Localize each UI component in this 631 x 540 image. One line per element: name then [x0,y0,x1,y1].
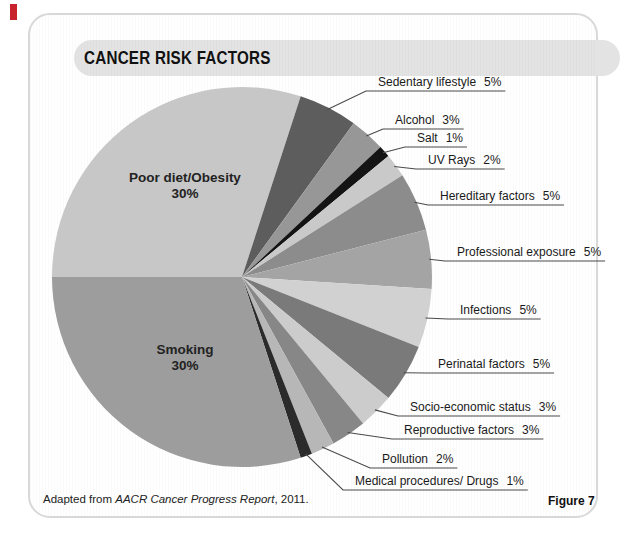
slice-label-hereditary-factors: Hereditary factors5% [440,190,560,202]
slice-label-socio-economic-status: Socio-economic status3% [410,401,556,413]
figure-panel: CANCER RISK FACTORS [28,13,598,518]
slice-label-infections: Infections5% [460,304,537,316]
source-prefix: Adapted from [43,493,115,505]
slice-name: Reproductive factors [404,423,514,437]
slice-label-reproductive-factors: Reproductive factors3% [404,424,539,436]
source-title: AACR Cancer Progress Report [115,493,274,505]
slice-pct: 30% [105,358,265,374]
slice-label-sedentary-lifestyle: Sedentary lifestyle5% [378,76,501,88]
slice-pct: 5% [584,245,601,259]
slice-pct: 5% [484,75,501,89]
slice-pct: 3% [442,113,459,127]
slice-label-smoking: Smoking 30% [105,342,265,374]
slice-pct: 2% [483,153,500,167]
figure-page: CANCER RISK FACTORS Poor diet/Obesity 30… [0,0,631,540]
slice-pct: 1% [506,474,523,488]
slice-name: Sedentary lifestyle [378,75,476,89]
red-edge-mark [10,4,17,20]
slice-pct: 5% [543,189,560,203]
slice-name: Infections [460,303,511,317]
slice-pct: 5% [533,357,550,371]
slice-name: Alcohol [395,113,434,127]
slice-pct: 3% [522,423,539,437]
slice-label-poor-diet-obesity: Poor diet/Obesity 30% [105,170,265,202]
slice-pct: 30% [105,186,265,202]
slice-name: UV Rays [428,153,475,167]
source-suffix: , 2011. [274,493,308,505]
slice-name: Professional exposure [457,245,576,259]
figure-title: CANCER RISK FACTORS [84,47,271,69]
slice-name: Poor diet/Obesity [105,170,265,186]
slice-name: Hereditary factors [440,189,535,203]
figure-number: Figure 7 [548,494,595,508]
slice-pct: 3% [539,400,556,414]
slice-label-medical-procedures-drugs: Medical procedures/ Drugs1% [355,475,524,487]
slice-label-pollution: Pollution2% [382,453,453,465]
slice-label-perinatal-factors: Perinatal factors5% [438,358,550,370]
slice-name: Salt [417,131,438,145]
slice-pct: 2% [436,452,453,466]
slice-label-salt: Salt1% [417,132,463,144]
slice-name: Pollution [382,452,428,466]
slice-label-uv-rays: UV Rays2% [428,154,501,166]
slice-label-professional-exposure: Professional exposure5% [457,246,601,258]
slice-name: Smoking [105,342,265,358]
slice-name: Perinatal factors [438,357,525,371]
source-note: Adapted from AACR Cancer Progress Report… [43,493,309,505]
slice-name: Socio-economic status [410,400,531,414]
slice-label-alcohol: Alcohol3% [395,114,460,126]
figure-header: CANCER RISK FACTORS [74,40,620,76]
slice-name: Medical procedures/ Drugs [355,474,498,488]
slice-pct: 1% [446,131,463,145]
slice-pct: 5% [519,303,536,317]
